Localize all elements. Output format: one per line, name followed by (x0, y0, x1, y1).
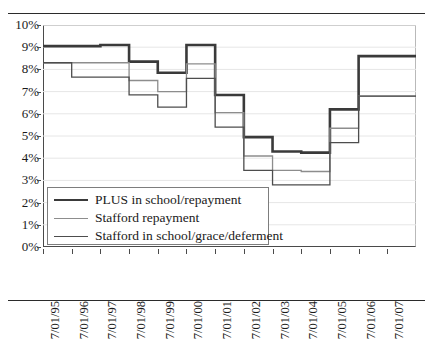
legend-swatch (54, 218, 88, 219)
legend-label: Stafford repayment (95, 211, 199, 225)
y-tick-label: 10% (0, 18, 39, 31)
x-tick-mark (43, 249, 44, 254)
x-tick-mark (158, 249, 159, 254)
x-tick-mark (273, 249, 274, 254)
legend-item: Stafford in school/grace/deferment (48, 227, 268, 245)
x-tick-label: 7/01/03 (278, 301, 293, 339)
y-tick-mark (37, 225, 41, 226)
y-tick-label: 6% (0, 107, 39, 120)
y-tick-mark (37, 247, 41, 248)
x-tick-mark (330, 249, 331, 254)
legend-swatch (54, 199, 88, 201)
y-tick-label: 3% (0, 173, 39, 186)
y-tick-label: 9% (0, 40, 39, 53)
y-tick-label: 5% (0, 129, 39, 142)
x-tick-label: 7/01/02 (249, 301, 264, 339)
legend-label: PLUS in school/repayment (95, 193, 241, 207)
x-tick-label: 7/01/97 (105, 301, 120, 339)
y-tick-mark (37, 69, 41, 70)
y-tick-label: 1% (0, 218, 39, 231)
bottom-rule (8, 300, 425, 301)
top-rule (8, 13, 425, 14)
series-line (43, 63, 416, 185)
legend-item: Stafford repayment (48, 209, 268, 227)
y-tick-label: 0% (0, 240, 39, 253)
legend-swatch (54, 236, 88, 237)
y-tick-label: 2% (0, 196, 39, 209)
x-tick-label: 7/01/06 (364, 301, 379, 339)
x-tick-label: 7/01/01 (220, 301, 235, 339)
y-axis: 0%1%2%3%4%5%6%7%8%9%10% (0, 25, 39, 247)
y-tick-mark (37, 47, 41, 48)
x-tick-label: 7/01/96 (77, 301, 92, 339)
x-tick-mark (244, 249, 245, 254)
y-tick-mark (37, 203, 41, 204)
y-tick-mark (37, 136, 41, 137)
x-tick-mark (215, 249, 216, 254)
y-tick-mark (37, 180, 41, 181)
y-tick-mark (37, 25, 41, 26)
x-tick-mark (72, 249, 73, 254)
x-tick-label: 7/01/98 (134, 301, 149, 339)
legend-label: Stafford in school/grace/deferment (95, 229, 283, 243)
x-tick-mark (301, 249, 302, 254)
y-tick-label: 8% (0, 62, 39, 75)
x-axis: 7/01/957/01/967/01/977/01/987/01/997/01/… (43, 249, 416, 304)
x-tick-label: 7/01/04 (306, 301, 321, 339)
y-tick-label: 7% (0, 85, 39, 98)
y-tick-mark (37, 158, 41, 159)
y-tick-mark (37, 92, 41, 93)
chart-legend: PLUS in school/repaymentStafford repayme… (47, 187, 269, 245)
x-tick-label: 7/01/00 (191, 301, 206, 339)
x-tick-mark (387, 249, 388, 254)
x-tick-label: 7/01/99 (163, 301, 178, 339)
series-line (43, 63, 416, 172)
x-tick-mark (129, 249, 130, 254)
legend-item: PLUS in school/repayment (48, 191, 268, 209)
x-tick-mark (186, 249, 187, 254)
x-tick-mark (359, 249, 360, 254)
y-tick-label: 4% (0, 151, 39, 164)
y-tick-mark (37, 114, 41, 115)
x-tick-mark (100, 249, 101, 254)
x-tick-label: 7/01/07 (392, 301, 407, 339)
x-tick-label: 7/01/95 (48, 301, 63, 339)
x-tick-label: 7/01/05 (335, 301, 350, 339)
